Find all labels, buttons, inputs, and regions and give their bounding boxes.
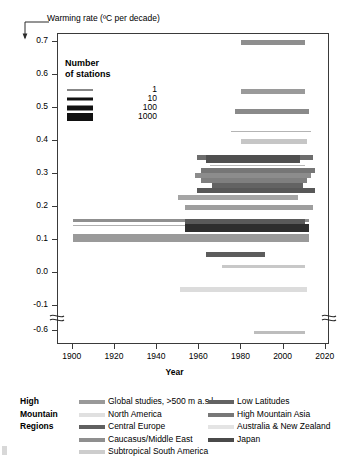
x-tick-label-6: 2020 <box>305 351 345 361</box>
warming-rate-bar <box>210 165 305 166</box>
region-legend-swatch <box>208 413 234 417</box>
warming-rate-bar <box>206 155 301 163</box>
x-axis-title: Year <box>0 367 349 377</box>
y-tick-5 <box>52 206 57 207</box>
y-tick-label-6: 0.1 <box>18 233 48 243</box>
region-legend-label: North America <box>108 408 162 421</box>
y-tick-label-4: 0.3 <box>18 167 48 177</box>
region-legend-swatch <box>79 450 105 454</box>
y-tick-6 <box>52 239 57 240</box>
y-tick-label-1: 0.6 <box>18 68 48 78</box>
station-legend-swatch <box>67 113 93 121</box>
warming-rate-bar <box>231 131 311 132</box>
x-tick-6 <box>325 344 326 349</box>
x-tick-label-1: 1920 <box>94 351 134 361</box>
y-tick-9 <box>52 330 57 331</box>
station-legend-row: 1000 <box>65 112 157 121</box>
warming-rate-bar <box>73 234 309 242</box>
x-tick-2 <box>156 344 157 349</box>
y-tick-3 <box>52 140 57 141</box>
region-legend-heading: High Mountain Regions <box>20 395 58 433</box>
region-legend-label: Low Latitudes <box>237 395 289 408</box>
station-legend-label: 1000 <box>138 111 157 121</box>
region-legend: High Mountain Regions Global studies, >5… <box>0 392 349 458</box>
y-tick-4 <box>52 173 57 174</box>
region-legend-heading-line-2: Regions <box>20 420 58 433</box>
page-corner-mark <box>2 446 7 455</box>
station-count-legend: Number of stations 1101001000 <box>65 58 157 121</box>
warming-rate-bar <box>180 287 307 292</box>
warming-rate-bar <box>241 89 304 94</box>
warming-rate-bar <box>254 331 305 334</box>
y-tick-2 <box>52 107 57 108</box>
warming-rate-bar <box>241 139 306 144</box>
region-legend-label: Global studies, >500 m a.s.l. <box>108 395 216 408</box>
warming-rate-bar <box>241 40 304 45</box>
region-legend-label: Subtropical South America <box>108 445 208 458</box>
station-legend-title-line2: of stations <box>65 69 157 80</box>
warming-rate-bar <box>185 224 309 232</box>
y-tick-label-7: 0.0 <box>18 266 48 276</box>
y-tick-7 <box>52 272 57 273</box>
x-tick-label-4: 1980 <box>220 351 260 361</box>
region-legend-swatch <box>79 413 105 417</box>
y-tick-1 <box>52 74 57 75</box>
y-tick-label-8: -0.1 <box>18 299 48 309</box>
station-legend-row: 1 <box>65 85 157 94</box>
region-legend-label: Australia & New Zealand <box>237 420 331 433</box>
station-legend-swatch <box>67 97 93 100</box>
region-legend-swatch <box>208 438 234 442</box>
y-tick-label-3: 0.4 <box>18 134 48 144</box>
region-legend-label: Japan <box>237 433 260 446</box>
x-tick-label-3: 1960 <box>178 351 218 361</box>
x-tick-1 <box>114 344 115 349</box>
station-legend-title-line1: Number <box>65 58 157 69</box>
x-tick-label-5: 2000 <box>263 351 303 361</box>
x-tick-label-2: 1940 <box>136 351 176 361</box>
warming-rate-bar <box>178 195 298 200</box>
region-legend-swatch <box>208 425 234 429</box>
y-axis-title: Warming rate (ºC per decade) <box>47 13 160 23</box>
region-legend-heading-line-1: Mountain <box>20 408 58 421</box>
region-legend-swatch <box>79 400 105 404</box>
warming-rate-bar <box>222 265 304 268</box>
y-tick-8 <box>52 305 57 306</box>
warming-rate-bar <box>185 205 314 210</box>
station-legend-swatch <box>67 89 93 90</box>
y-tick-label-2: 0.5 <box>18 101 48 111</box>
warming-rate-bar <box>235 109 309 114</box>
region-legend-label: High Mountain Asia <box>237 408 310 421</box>
region-legend-heading-line-0: High <box>20 395 58 408</box>
y-tick-label-5: 0.2 <box>18 200 48 210</box>
y-axis-break-left <box>49 310 65 322</box>
y-tick-label-0: 0.7 <box>18 35 48 45</box>
region-legend-swatch <box>79 438 105 442</box>
warming-rate-bar <box>206 252 265 257</box>
y-tick-0 <box>52 41 57 42</box>
x-tick-label-0: 1900 <box>52 351 92 361</box>
y-tick-label-9: -0.6 <box>18 324 48 334</box>
station-legend-swatch <box>67 105 93 110</box>
y-axis-break-right <box>321 310 337 322</box>
region-legend-label: Caucasus/Middle East <box>108 433 193 446</box>
region-legend-swatch <box>79 425 105 429</box>
warming-rate-bar <box>197 188 315 193</box>
region-legend-swatch <box>208 400 234 404</box>
region-legend-label: Central Europe <box>108 420 165 433</box>
figure-root: Warming rate (ºC per decade) 0.70.60.50.… <box>0 0 349 458</box>
x-tick-5 <box>283 344 284 349</box>
x-tick-4 <box>240 344 241 349</box>
x-tick-3 <box>198 344 199 349</box>
x-tick-0 <box>72 344 73 349</box>
